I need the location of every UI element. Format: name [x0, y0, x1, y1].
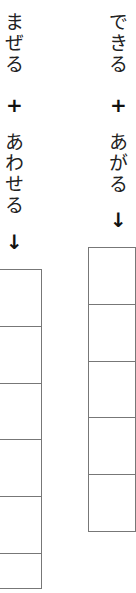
right-plus-sign: +	[110, 95, 127, 115]
answer-box[interactable]	[89, 418, 135, 475]
answer-box[interactable]	[0, 327, 41, 384]
left-word-mazeru: まぜる	[3, 12, 22, 75]
right-word-dekiru: できる	[107, 12, 126, 75]
right-answer-grid	[88, 247, 136, 532]
answer-box[interactable]	[89, 248, 135, 305]
answer-box[interactable]	[89, 362, 135, 419]
answer-box[interactable]	[0, 554, 41, 593]
left-word-awaseru: あわせる	[3, 132, 22, 216]
answer-box[interactable]	[0, 440, 41, 497]
answer-box[interactable]	[0, 497, 41, 554]
answer-box[interactable]	[89, 305, 135, 362]
left-answer-grid	[0, 269, 42, 589]
answer-box[interactable]	[0, 384, 41, 441]
answer-box[interactable]	[89, 475, 135, 532]
right-word-agaru: あがる	[107, 132, 126, 195]
right-down-arrow-icon: ↓	[110, 210, 127, 230]
answer-box[interactable]	[0, 270, 41, 327]
left-plus-sign: +	[6, 95, 23, 115]
left-down-arrow-icon: ↓	[6, 232, 23, 252]
